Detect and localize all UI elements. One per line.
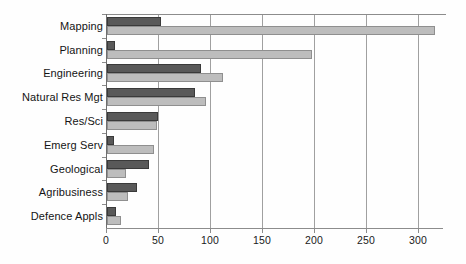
y-tick-3 <box>102 85 106 86</box>
category-label-planning: Planning <box>59 44 103 56</box>
gridline-200 <box>314 15 315 228</box>
y-tick-8 <box>102 204 106 205</box>
x-tick-label-150: 150 <box>253 234 271 246</box>
x-tick-250 <box>366 229 367 233</box>
bar-defence-appls-series-1 <box>107 207 116 216</box>
category-axis-line <box>106 228 443 229</box>
category-label-geological: Geological <box>50 163 103 175</box>
category-label-mapping: Mapping <box>60 20 103 32</box>
bar-res-sci-series-2 <box>107 121 157 130</box>
plot-area: 050100150200250300 <box>106 14 446 229</box>
bar-mapping-series-1 <box>107 17 161 26</box>
bar-defence-appls-series-2 <box>107 216 121 225</box>
x-tick-50 <box>158 229 159 233</box>
x-tick-0 <box>106 229 107 233</box>
bar-chart: MappingPlanningEngineeringNatural Res Mg… <box>0 0 466 264</box>
bar-engineering-series-2 <box>107 73 223 82</box>
bar-engineering-series-1 <box>107 64 201 73</box>
plot-frame-top <box>106 14 446 15</box>
x-tick-100 <box>210 229 211 233</box>
bar-emerg-serv-series-2 <box>107 145 154 154</box>
y-tick-7 <box>102 180 106 181</box>
x-tick-label-0: 0 <box>103 234 109 246</box>
x-tick-label-200: 200 <box>305 234 323 246</box>
y-tick-5 <box>102 133 106 134</box>
y-tick-1 <box>102 38 106 39</box>
bar-agribusiness-series-1 <box>107 183 137 192</box>
bar-res-sci-series-1 <box>107 112 158 121</box>
bar-agribusiness-series-2 <box>107 192 128 201</box>
bar-planning-series-2 <box>107 50 312 59</box>
bar-natural-res-mgt-series-1 <box>107 88 195 97</box>
category-label-res-sci: Res/Sci <box>64 115 103 127</box>
bar-mapping-series-2 <box>107 26 435 35</box>
gridline-100 <box>210 15 211 228</box>
bar-geological-series-2 <box>107 169 126 178</box>
gridline-150 <box>262 15 263 228</box>
bar-emerg-serv-series-1 <box>107 136 114 145</box>
y-tick-2 <box>102 62 106 63</box>
x-tick-150 <box>262 229 263 233</box>
bar-geological-series-1 <box>107 160 149 169</box>
category-label-engineering: Engineering <box>43 67 103 79</box>
gridline-50 <box>158 15 159 228</box>
gridline-300 <box>418 15 419 228</box>
x-tick-label-300: 300 <box>409 234 427 246</box>
category-label-emerg-serv: Emerg Serv <box>44 139 103 151</box>
y-tick-0 <box>102 14 106 15</box>
x-tick-label-100: 100 <box>201 234 219 246</box>
x-tick-label-50: 50 <box>152 234 164 246</box>
x-tick-200 <box>314 229 315 233</box>
bar-planning-series-1 <box>107 41 115 50</box>
gridline-250 <box>366 15 367 228</box>
y-tick-6 <box>102 157 106 158</box>
x-tick-300 <box>418 229 419 233</box>
x-tick-label-250: 250 <box>357 234 375 246</box>
category-label-agribusiness: Agribusiness <box>39 186 103 198</box>
category-axis-labels: MappingPlanningEngineeringNatural Res Mg… <box>0 14 103 229</box>
y-tick-4 <box>102 109 106 110</box>
bar-natural-res-mgt-series-2 <box>107 97 206 106</box>
category-label-natural-res-mgt: Natural Res Mgt <box>22 91 103 103</box>
category-label-defence-appls: Defence Appls <box>31 210 103 222</box>
